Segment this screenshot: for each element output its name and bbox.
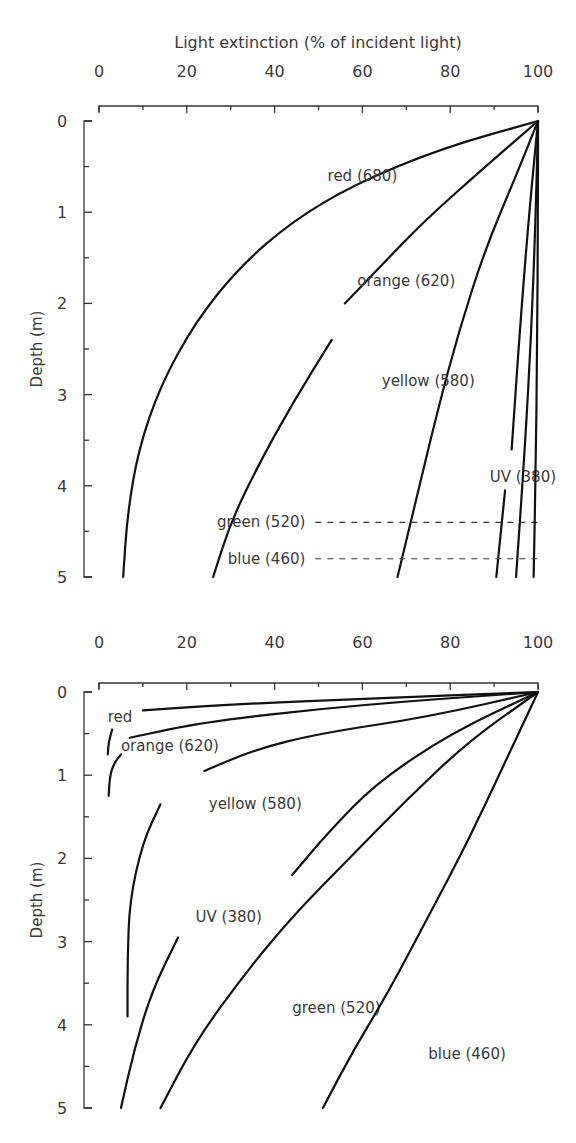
x-tick-label: 0 <box>94 62 104 81</box>
y-tick-label: 1 <box>57 766 67 785</box>
series-label: yellow (580) <box>209 795 302 813</box>
y-tick-label: 3 <box>57 933 67 952</box>
y-tick-label: 0 <box>57 683 67 702</box>
series-label: yellow (580) <box>382 372 475 390</box>
x-tick-label: 40 <box>264 62 284 81</box>
series-green: green (520) <box>217 121 538 577</box>
y-tick-label: 4 <box>57 477 67 496</box>
series-label: blue (460) <box>228 550 306 568</box>
series-line <box>109 754 121 796</box>
y-tick-label: 4 <box>57 1016 67 1035</box>
y-tick-label: 5 <box>57 568 67 587</box>
y-tick-label: 5 <box>57 1099 67 1118</box>
series-orange: orange (620) <box>213 121 538 577</box>
top-panel: 020406080100012345Depth (m)red (680)oran… <box>28 62 556 587</box>
x-tick-label: 100 <box>523 62 554 81</box>
series-label: orange (620) <box>357 272 455 290</box>
series-label: red (680) <box>328 167 398 185</box>
top-chart-title: Light extinction (% of incident light) <box>174 33 462 52</box>
y-tick-label: 2 <box>57 294 67 313</box>
series-label: green (520) <box>217 513 305 531</box>
x-tick-label: 0 <box>94 633 104 652</box>
y-tick-label: 1 <box>57 203 67 222</box>
x-tick-label: 20 <box>177 633 197 652</box>
y-tick-label: 0 <box>57 112 67 131</box>
y-axis-label: Depth (m) <box>28 311 46 388</box>
series-uv: UV (380) <box>490 121 556 577</box>
series-line <box>213 340 332 577</box>
x-tick-label: 100 <box>523 633 554 652</box>
series-label: orange (620) <box>121 737 219 755</box>
series-blue: blue (460) <box>228 121 538 577</box>
series-line <box>496 490 505 577</box>
x-tick-label: 60 <box>352 62 372 81</box>
series-line <box>123 121 538 577</box>
x-tick-label: 80 <box>440 633 460 652</box>
series-label: green (520) <box>292 999 380 1017</box>
series-line <box>121 937 178 1108</box>
y-axis-label: Depth (m) <box>28 862 46 939</box>
series-line <box>108 729 112 754</box>
y-tick-label: 3 <box>57 386 67 405</box>
series-label: blue (460) <box>428 1045 506 1063</box>
series-label: red <box>108 708 133 726</box>
series-line <box>398 121 538 577</box>
x-tick-label: 40 <box>264 633 284 652</box>
series-red: red (680) <box>123 121 538 577</box>
x-tick-label: 20 <box>177 62 197 81</box>
y-tick-label: 2 <box>57 849 67 868</box>
x-tick-label: 60 <box>352 633 372 652</box>
series-label: UV (380) <box>196 908 262 926</box>
bottom-panel: 020406080100012345Depth (m)redorange (62… <box>28 633 553 1118</box>
series-blue: blue (460) <box>323 692 538 1108</box>
x-tick-label: 80 <box>440 62 460 81</box>
light-extinction-figure: Light extinction (% of incident light) 0… <box>0 0 576 1143</box>
